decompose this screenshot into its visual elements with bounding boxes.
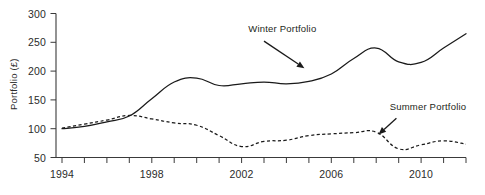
x-tick-label-2010: 2010 — [409, 168, 433, 180]
y-axis-group: 300 250 200 150 100 50 Portfolio (£) — [8, 8, 56, 164]
y-axis-title: Portfolio (£) — [8, 58, 19, 110]
y-tick-label-150: 150 — [28, 94, 46, 106]
y-tick-label-300: 300 — [28, 8, 46, 20]
y-tick-label-200: 200 — [28, 65, 46, 77]
annotation-summer: Summer Portfolio — [378, 101, 466, 135]
y-tick-label-50: 50 — [34, 152, 46, 164]
series-line-summer-portfolio — [62, 115, 466, 149]
annotation-arrow-line-winter — [264, 41, 298, 64]
x-tick-label-2002: 2002 — [230, 168, 254, 180]
x-tick-label-1998: 1998 — [140, 168, 164, 180]
series-group — [62, 34, 466, 150]
annotation-winter: Winter Portfolio — [248, 23, 316, 68]
y-axis-ticks — [51, 14, 57, 158]
annotation-label-summer-portfolio: Summer Portfolio — [390, 101, 467, 112]
chart-container: 300 250 200 150 100 50 Portfolio (£) — [0, 0, 485, 195]
annotation-label-winter-portfolio: Winter Portfolio — [248, 23, 316, 34]
series-line-winter-portfolio — [62, 34, 466, 129]
annotation-arrow-line-summer — [384, 118, 396, 129]
x-tick-label-1994: 1994 — [50, 168, 74, 180]
x-axis-group: 1994 1998 2002 2006 2010 — [50, 158, 466, 181]
portfolio-line-chart: 300 250 200 150 100 50 Portfolio (£) — [0, 0, 485, 195]
annotation-arrow-head-winter — [296, 61, 304, 68]
y-tick-label-250: 250 — [28, 36, 46, 48]
y-tick-label-100: 100 — [28, 123, 46, 135]
x-axis-ticks — [62, 158, 466, 164]
x-tick-label-2006: 2006 — [319, 168, 343, 180]
